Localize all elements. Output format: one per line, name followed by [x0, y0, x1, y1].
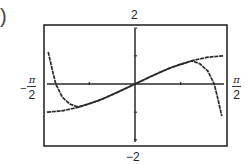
y-min-label: −2 [126, 151, 140, 163]
denominator: 2 [29, 89, 36, 101]
fraction-bar [232, 86, 241, 87]
fraction-bar [27, 86, 36, 87]
pi-symbol: π [232, 74, 241, 85]
x-min-fraction: π 2 [27, 74, 36, 101]
y-max-label: 2 [131, 9, 138, 21]
x-min-label: − π 2 [20, 74, 36, 101]
panel-label: ) [0, 6, 7, 26]
denominator: 2 [233, 89, 240, 101]
chart-plot [0, 0, 251, 165]
minus-sign: − [20, 82, 26, 94]
pi-symbol: π [28, 74, 37, 85]
x-max-label: π 2 [232, 74, 241, 101]
